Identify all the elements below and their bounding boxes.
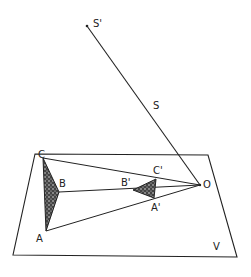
label-a: A [36, 234, 43, 244]
label-a-prime: A' [151, 203, 161, 213]
ray-s [87, 26, 200, 185]
triangle-abc [43, 158, 59, 231]
point-s-prime [86, 25, 89, 28]
label-b-prime: B' [121, 178, 131, 188]
triangle-a-prime-b-prime-c-prime [133, 179, 156, 198]
label-s: S [153, 101, 159, 111]
label-s-prime: S' [93, 19, 102, 29]
label-plane-v: V [213, 242, 220, 252]
label-b: B [59, 179, 66, 189]
label-c: C [38, 150, 45, 160]
label-o: O [203, 180, 211, 190]
label-c-prime: C' [153, 166, 163, 176]
point-o [199, 184, 201, 186]
